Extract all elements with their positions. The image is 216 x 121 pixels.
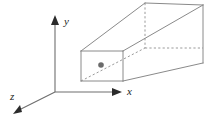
- z-axis-arrowhead-icon: [13, 105, 22, 114]
- box-hidden-edge-bottom-left-connector: [81, 48, 145, 81]
- box-edge-back-top: [145, 3, 203, 5]
- x-axis-label: x: [126, 85, 132, 97]
- y-axis-label: y: [63, 15, 69, 27]
- box-hidden-edges: [81, 3, 203, 81]
- z-axis-label: z: [9, 90, 15, 102]
- box-edge-bottom-right-connector: [123, 63, 203, 81]
- coordinate-axes: [13, 15, 122, 114]
- x-axis-arrowhead-icon: [112, 88, 122, 96]
- marked-point: [98, 62, 104, 68]
- box-visible-edges: [81, 3, 203, 81]
- figure-3d-box-diagram: y x z: [0, 0, 216, 121]
- y-axis-arrowhead-icon: [51, 15, 59, 25]
- box-edge-top-right-connector: [123, 5, 203, 51]
- diagram-canvas: y x z: [0, 0, 216, 121]
- z-axis-line: [19, 92, 55, 110]
